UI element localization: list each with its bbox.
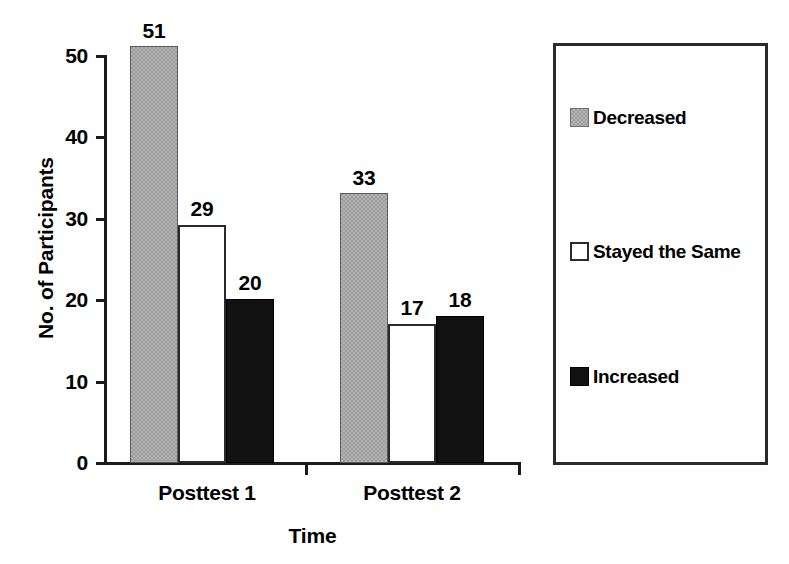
bar-value-posttest1-increased: 20 <box>220 272 280 293</box>
y-tick-mark-0 <box>96 462 105 465</box>
legend-label-increased: Increased <box>593 367 679 386</box>
legend-swatch-white-icon <box>570 242 589 261</box>
bar-posttest1-increased[interactable] <box>226 299 274 463</box>
y-tick-mark-40 <box>96 136 105 139</box>
y-tick-label-50: 50 <box>32 45 88 66</box>
legend-swatch-black-icon <box>570 367 589 386</box>
y-tick-label-0: 0 <box>32 452 88 473</box>
y-tick-mark-30 <box>96 218 105 221</box>
y-tick-mark-50 <box>96 55 105 58</box>
bar-posttest1-stayed-the-same[interactable] <box>178 225 226 463</box>
x-tick-mark-end <box>518 462 521 475</box>
y-axis-title: No. of Participants <box>34 98 58 398</box>
bar-posttest2-decreased[interactable] <box>340 193 388 463</box>
bar-value-posttest2-increased: 18 <box>430 289 490 310</box>
bar-value-posttest2-decreased: 33 <box>334 167 394 188</box>
x-tick-mark-mid <box>305 462 308 475</box>
bar-posttest2-increased[interactable] <box>436 316 484 463</box>
x-axis-title: Time <box>104 524 521 548</box>
legend-entry-increased[interactable]: Increased <box>570 367 679 386</box>
bar-value-posttest1-decreased: 51 <box>124 20 184 41</box>
bar-value-posttest1-stayed-the-same: 29 <box>172 198 232 219</box>
plot-area: 50 40 30 20 10 0 51 29 20 33 17 18 Postt… <box>0 0 540 564</box>
x-category-label-posttest-1: Posttest 1 <box>122 481 292 505</box>
legend-label-decreased: Decreased <box>593 108 686 127</box>
bar-chart-figure: 50 40 30 20 10 0 51 29 20 33 17 18 Postt… <box>0 0 789 564</box>
legend-label-stayed-the-same: Stayed the Same <box>593 242 741 261</box>
x-category-label-posttest-2: Posttest 2 <box>327 481 497 505</box>
bar-posttest1-decreased[interactable] <box>130 46 178 463</box>
legend-swatch-gray-icon <box>570 108 589 127</box>
y-tick-mark-10 <box>96 381 105 384</box>
legend-entry-stayed-the-same[interactable]: Stayed the Same <box>570 242 741 261</box>
y-tick-mark-20 <box>96 299 105 302</box>
legend-box: Decreased Stayed the Same Increased <box>553 43 768 465</box>
y-axis-line <box>104 55 107 464</box>
bar-posttest2-stayed-the-same[interactable] <box>388 324 436 463</box>
legend-entry-decreased[interactable]: Decreased <box>570 108 686 127</box>
